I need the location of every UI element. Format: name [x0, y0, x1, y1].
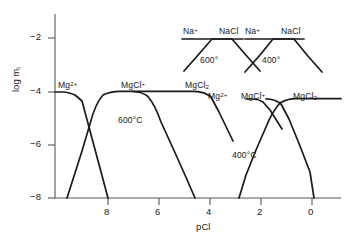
curve-mg2plus-600 [55, 92, 108, 198]
curve-label-mgcl2-600-stoich: 2 [205, 83, 209, 90]
curve-label-mgclplus-400-text: MgCl [241, 91, 261, 101]
curve-label-mgclplus-600: MgCl+ [121, 81, 145, 90]
curve-label-mgclplus-600-charge: + [141, 80, 145, 87]
annotation-400-deg-upper: 400° [262, 56, 280, 65]
y-axis-title-subscript: i [15, 67, 22, 69]
speciation-chart-figure: −2 −4 −6 −8 log mi 8 6 4 2 0 pCl Mg2+ Mg… [0, 0, 356, 241]
curve-label-mg2plus-400-charge: 2+ [220, 91, 227, 98]
curve-label-mg2plus-400-text: Mg [208, 91, 220, 101]
y-tick-label--2: −2 [30, 32, 41, 42]
curve-label-mg2plus-600: Mg2+ [58, 81, 77, 90]
curve-label-mgclplus-600-text: MgCl [121, 80, 141, 90]
curve-label-mgcl2-400-stoich: 2 [313, 94, 317, 101]
curve-mgclplus-600 [67, 91, 233, 198]
x-tick-label-0: 0 [308, 207, 313, 217]
curve-label-mgclplus-400-charge: + [261, 91, 265, 98]
curve-mgcl2-600 [133, 92, 195, 199]
curve-label-mgcl2-600-text: MgCl [185, 80, 205, 90]
x-tick-label-2: 2 [257, 207, 262, 217]
curve-label-mgclplus-400: MgCl+ [241, 92, 265, 101]
axis-lines [55, 14, 341, 198]
curve-mgclplus-400 [239, 99, 341, 198]
x-tick-label-6: 6 [155, 207, 160, 217]
x-tick-label-8: 8 [104, 207, 109, 217]
annotation-600-deg-c: 600°C [118, 116, 142, 125]
curve-label-nacl-400: NaCl [281, 27, 301, 36]
curve-label-mg2plus-600-charge: 2+ [70, 80, 77, 87]
y-axis-title: log mi [10, 32, 22, 92]
curve-label-naplus-400: Na+ [245, 27, 260, 36]
y-axis-title-text: log m [10, 69, 21, 92]
y-tick-label--8: −8 [30, 192, 41, 202]
curve-label-naplus-400-charge: + [256, 26, 260, 33]
curve-label-naplus-600: Na+ [183, 27, 198, 36]
annotation-600-deg-upper: 600° [200, 56, 218, 65]
y-tick-label--6: −6 [30, 139, 41, 149]
curve-mg2plus-400 [246, 99, 282, 129]
curve-label-mgcl2-400-text: MgCl [293, 91, 313, 101]
annotation-400-deg-c: 400°C [232, 151, 256, 160]
curve-label-naplus-600-charge: + [194, 26, 198, 33]
y-axis-ticks [48, 38, 55, 198]
chart-plot-area [0, 0, 356, 241]
x-axis-title: pCl [196, 222, 211, 232]
curve-label-mgcl2-600: MgCl2 [185, 81, 209, 91]
curve-label-mg2plus-400: Mg2+ [208, 92, 227, 101]
curve-label-naplus-600-text: Na [183, 26, 194, 36]
curve-label-mg2plus-600-text: Mg [58, 80, 70, 90]
curve-label-nacl-600: NaCl [219, 27, 239, 36]
x-tick-label-4: 4 [206, 207, 211, 217]
curve-label-naplus-400-text: Na [245, 26, 256, 36]
x-axis-ticks [108, 198, 312, 205]
y-tick-label--4: −4 [30, 86, 41, 96]
curve-label-mgcl2-400: MgCl2 [293, 92, 317, 102]
curve-naplus-600 [182, 39, 260, 71]
